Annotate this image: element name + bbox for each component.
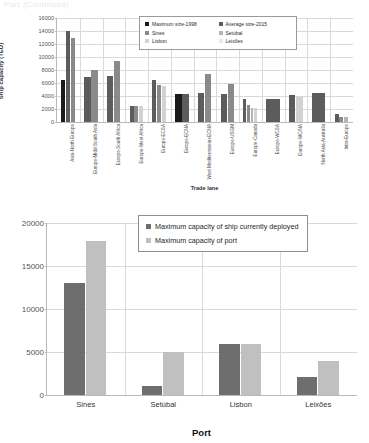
bar bbox=[266, 99, 280, 122]
y-axis-tick-label: 20000 bbox=[22, 219, 47, 228]
bar bbox=[139, 106, 143, 122]
legend-swatch-icon bbox=[145, 22, 149, 26]
x-axis-category-label: Europe-Midd-South Asia bbox=[93, 124, 98, 174]
x-axis-category-label: Leixões bbox=[305, 400, 331, 409]
category-separator bbox=[125, 223, 126, 395]
trade-lane-chart: Ship capacity (TEU) 02000400060008000100… bbox=[0, 10, 369, 205]
y-axis-tick bbox=[55, 109, 57, 110]
bar bbox=[134, 106, 138, 122]
port-capacity-chart: Ship capacity (TEU) 05000100001500020000… bbox=[0, 205, 369, 443]
legend-swatch-icon bbox=[145, 31, 149, 35]
x-axis-category-label: Sines bbox=[76, 400, 95, 409]
y-axis-tick bbox=[45, 266, 47, 267]
legend-label: Sines bbox=[152, 30, 165, 36]
x-axis-category-label: Setúbal bbox=[151, 400, 176, 409]
bar bbox=[175, 94, 181, 122]
x-axis-category-label: Intra-Europe bbox=[344, 124, 349, 150]
bar bbox=[243, 99, 246, 122]
bar bbox=[66, 31, 70, 122]
x-axis-category-label: Europe-Canada bbox=[253, 124, 258, 156]
y-axis-tick bbox=[55, 122, 57, 123]
bar bbox=[114, 61, 120, 122]
legend-item: Maximum capacity of ship currently deplo… bbox=[146, 220, 298, 233]
x-axis-category-label: Europe-WCSA bbox=[275, 124, 280, 154]
bar bbox=[251, 108, 254, 122]
bar bbox=[221, 94, 227, 122]
bar bbox=[296, 97, 302, 122]
legend-swatch-icon bbox=[219, 39, 223, 43]
category-separator bbox=[80, 18, 81, 122]
bar bbox=[297, 377, 317, 395]
legend-label: Average size-2015 bbox=[226, 21, 268, 27]
legend-label: Maximum capacity of ship currently deplo… bbox=[155, 222, 298, 231]
bar bbox=[152, 80, 156, 122]
legend-label: Maximum capacity of port bbox=[155, 236, 237, 245]
x-axis-category-label: Europe-WC/NA bbox=[298, 124, 303, 156]
bar bbox=[142, 386, 162, 395]
chart1-y-axis-title: Ship capacity (TEU) bbox=[0, 36, 4, 106]
legend-item: Setúbal bbox=[219, 29, 293, 38]
legend-swatch-icon bbox=[219, 22, 223, 26]
bar bbox=[339, 117, 343, 122]
bar bbox=[84, 77, 90, 122]
bar bbox=[107, 76, 113, 122]
category-separator bbox=[330, 18, 331, 122]
x-axis-category-label: Lisbon bbox=[230, 400, 252, 409]
chart2-legend: Maximum capacity of ship currently deplo… bbox=[138, 215, 308, 252]
x-axis-category-label: Asia-North Europe bbox=[70, 124, 75, 162]
bar bbox=[241, 344, 261, 395]
x-axis-category-label: Europe-West Africa bbox=[139, 124, 144, 164]
legend-item: Maximum capacity of port bbox=[146, 233, 298, 246]
bar bbox=[130, 106, 134, 122]
legend-label: Maximum size-1998 bbox=[152, 21, 197, 27]
y-axis-tick bbox=[55, 18, 57, 19]
bar bbox=[157, 85, 161, 122]
legend-item: Average size-2015 bbox=[219, 20, 293, 29]
y-axis-tick bbox=[55, 83, 57, 84]
legend-swatch-icon bbox=[146, 238, 151, 243]
faded-page-header: Port (Continued) bbox=[4, 0, 69, 9]
y-axis-tick-label: 15000 bbox=[22, 262, 47, 271]
bar bbox=[198, 93, 204, 122]
x-axis-category-label: West Mediterranean-ECNA bbox=[207, 124, 212, 180]
x-axis-category-label: Europe-ECSA bbox=[161, 124, 166, 153]
y-axis-tick bbox=[45, 309, 47, 310]
bar bbox=[289, 95, 295, 122]
bar bbox=[247, 105, 250, 122]
figure-page: Port (Continued) Ship capacity (TEU) 020… bbox=[0, 0, 369, 443]
x-axis-category-label: Europe-South Africa bbox=[116, 124, 121, 165]
legend-item: Sines bbox=[145, 29, 219, 38]
bar bbox=[254, 108, 257, 122]
bar bbox=[86, 241, 106, 395]
legend-item: Lisbon bbox=[145, 37, 219, 46]
legend-label: Lisbon bbox=[152, 38, 167, 44]
x-axis-category-label: Europe-ECNA bbox=[184, 124, 189, 153]
y-axis-tick bbox=[55, 57, 57, 58]
y-axis-tick bbox=[55, 31, 57, 32]
bar bbox=[163, 352, 183, 395]
bar bbox=[318, 361, 338, 395]
bar bbox=[71, 38, 75, 122]
bar bbox=[162, 86, 166, 122]
y-axis-tick bbox=[55, 44, 57, 45]
y-axis-tick bbox=[55, 96, 57, 97]
y-axis-tick bbox=[45, 395, 47, 396]
category-separator bbox=[307, 18, 308, 122]
legend-label: Setúbal bbox=[226, 30, 243, 36]
bar bbox=[228, 84, 234, 122]
bar bbox=[91, 70, 97, 122]
bar bbox=[219, 344, 239, 395]
bar bbox=[335, 114, 339, 122]
chart2-x-axis-title: Port bbox=[46, 427, 357, 438]
y-axis-tick bbox=[45, 352, 47, 353]
bar bbox=[312, 93, 326, 122]
gridline bbox=[57, 57, 353, 58]
legend-swatch-icon bbox=[146, 224, 151, 229]
bar bbox=[344, 117, 348, 122]
legend-swatch-icon bbox=[145, 39, 149, 43]
y-axis-tick-label: 10000 bbox=[22, 305, 47, 314]
y-axis-tick bbox=[55, 70, 57, 71]
x-axis-category-label: North Asia-Australia bbox=[321, 124, 326, 165]
legend-swatch-icon bbox=[219, 31, 223, 35]
legend-item: Maximum size-1998 bbox=[145, 20, 219, 29]
